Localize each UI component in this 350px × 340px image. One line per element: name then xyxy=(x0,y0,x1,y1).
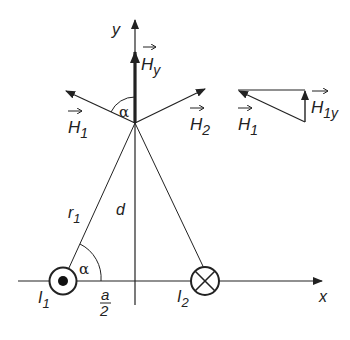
hy-label: Hy xyxy=(141,47,161,78)
r2-line xyxy=(135,123,210,281)
d-label: d xyxy=(116,201,126,218)
apex-alpha-label: α xyxy=(119,103,129,121)
triangle-h1-label: H1 xyxy=(238,108,258,138)
r1-label: r1 xyxy=(68,204,81,226)
h2-label: H2 xyxy=(190,108,210,138)
svg-text:H1: H1 xyxy=(238,115,258,138)
x-axis-label: x xyxy=(318,288,328,305)
svg-text:H1y: H1y xyxy=(311,98,339,121)
svg-text:H1: H1 xyxy=(68,118,88,141)
current-i1-dot-icon xyxy=(50,268,77,295)
svg-text:2: 2 xyxy=(99,302,109,319)
base-alpha-label: α xyxy=(79,260,89,278)
i2-label: I2 xyxy=(177,288,189,310)
y-axis-label: y xyxy=(111,21,121,38)
field-diagram: x y α α I1 I2 r1 d a 2 xyxy=(0,0,350,340)
diagram-canvas: x y α α I1 I2 r1 d a 2 xyxy=(0,0,350,340)
svg-text:H2: H2 xyxy=(190,115,210,138)
svg-text:Hy: Hy xyxy=(141,55,161,78)
svg-text:a: a xyxy=(101,286,109,303)
h1y-label: H1y xyxy=(311,91,339,121)
h1-label: H1 xyxy=(68,111,88,141)
a-half-fraction: a 2 xyxy=(99,286,111,319)
current-i2-cross-icon xyxy=(191,267,219,295)
i1-label: I1 xyxy=(38,289,50,311)
